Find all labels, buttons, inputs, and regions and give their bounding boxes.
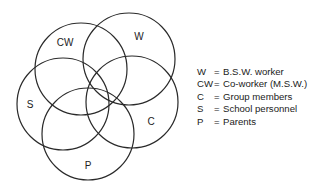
legend-text: School personnel bbox=[223, 103, 297, 115]
legend-equals: = bbox=[214, 103, 223, 115]
venn-labels: CWWSCP bbox=[27, 31, 155, 171]
legend-item-p: P = Parents bbox=[197, 116, 307, 128]
legend-key: CW bbox=[197, 78, 214, 90]
legend-item-c: C = Group members bbox=[197, 91, 307, 103]
venn-diagram: CWWSCP bbox=[0, 0, 200, 194]
circle-label-w: W bbox=[134, 31, 144, 42]
circle-label-cw: CW bbox=[57, 37, 74, 48]
circle-label-s: S bbox=[27, 99, 34, 110]
legend: W = B.S.W. worker CW = Co-worker (M.S.W.… bbox=[197, 66, 307, 128]
legend-key: P bbox=[197, 116, 214, 128]
venn-circles bbox=[17, 13, 178, 180]
legend-item-cw: CW = Co-worker (M.S.W.) bbox=[197, 78, 307, 90]
legend-key: W bbox=[197, 66, 214, 78]
legend-text: Group members bbox=[223, 91, 292, 103]
legend-equals: = bbox=[214, 66, 223, 78]
circle-cw bbox=[35, 23, 127, 115]
legend-equals: = bbox=[214, 91, 223, 103]
legend-key: S bbox=[197, 103, 214, 115]
legend-item-w: W = B.S.W. worker bbox=[197, 66, 307, 78]
legend-text: Co-worker (M.S.W.) bbox=[223, 78, 307, 90]
legend-item-s: S = School personnel bbox=[197, 103, 307, 115]
legend-equals: = bbox=[214, 78, 223, 90]
legend-equals: = bbox=[214, 116, 223, 128]
circle-c bbox=[86, 56, 178, 148]
legend-text: B.S.W. worker bbox=[223, 66, 284, 78]
circle-label-p: P bbox=[85, 160, 92, 171]
circle-w bbox=[83, 13, 175, 105]
circle-label-c: C bbox=[147, 116, 154, 127]
legend-text: Parents bbox=[223, 116, 256, 128]
legend-key: C bbox=[197, 91, 214, 103]
